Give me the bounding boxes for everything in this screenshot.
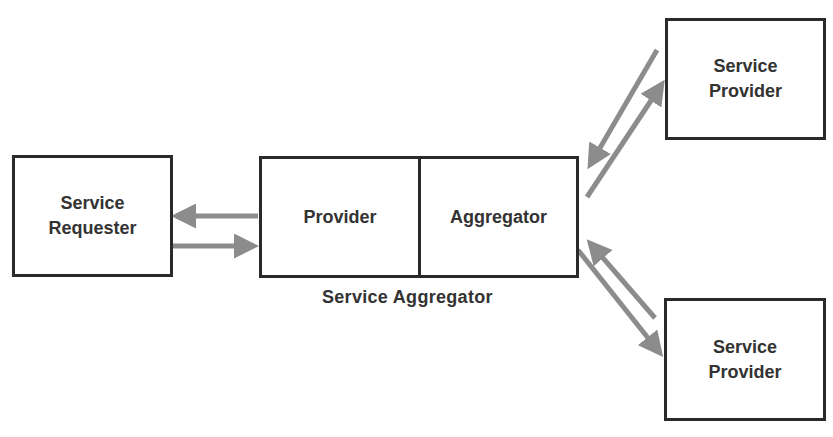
aggregator-aggregator-box: Aggregator	[418, 156, 579, 278]
arrow-aggregator-to-top-provider	[587, 84, 662, 197]
arrow-top-provider-to-aggregator	[590, 50, 657, 165]
aggregator-label: Aggregator	[450, 205, 547, 230]
provider-label: Provider	[303, 205, 376, 230]
aggregator-provider-box: Provider	[259, 156, 421, 278]
service-provider-bottom-box: Service Provider	[664, 298, 826, 421]
arrow-aggregator-to-bottom-provider	[578, 250, 660, 353]
service-provider-top-box: Service Provider	[665, 18, 826, 140]
service-requester-label: Service Requester	[48, 191, 136, 241]
service-provider-top-label: Service Provider	[709, 54, 782, 104]
arrow-bottom-provider-to-aggregator	[590, 243, 655, 318]
service-aggregator-caption: Service Aggregator	[322, 287, 493, 308]
service-provider-bottom-label: Service Provider	[708, 335, 781, 385]
service-requester-box: Service Requester	[12, 155, 173, 277]
